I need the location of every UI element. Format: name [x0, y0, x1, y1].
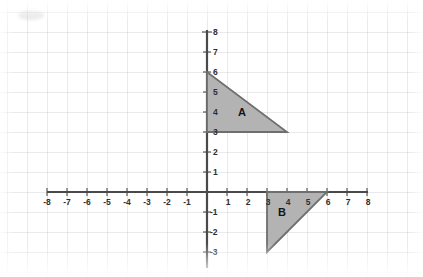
x-tick-label: 4: [286, 197, 291, 207]
x-tick-label: 5: [306, 197, 311, 207]
x-tick-label: 6: [326, 197, 331, 207]
x-negative-tick-labels: -8 -7 -6 -5 -4 -3 -2 -1: [43, 197, 191, 207]
triangle-b-label: B: [278, 206, 286, 218]
triangle-a-shape: [207, 72, 287, 132]
y-tick-label: -1: [210, 207, 218, 217]
x-tick-label: 7: [346, 197, 351, 207]
coordinate-plane-figure: -8 -7 -6 -5 -4 -3 -2 -1 1 2 3 4 5 6 7 8 …: [0, 0, 423, 277]
x-tick-label: 3: [266, 197, 271, 207]
y-tick-label: 3: [213, 127, 218, 137]
y-tick-label: 7: [213, 47, 218, 57]
x-tick-label: 1: [226, 197, 231, 207]
x-tick-label: -2: [163, 197, 171, 207]
y-tick-label: 2: [213, 147, 218, 157]
y-tick-label: 5: [213, 87, 218, 97]
x-tick-label: -5: [103, 197, 111, 207]
x-tick-label: -1: [183, 197, 191, 207]
y-tick-label: 6: [213, 67, 218, 77]
triangle-a-label: A: [238, 106, 246, 118]
y-tick-label: -2: [210, 227, 218, 237]
x-tick-label: -6: [83, 197, 91, 207]
x-tick-label: -3: [143, 197, 151, 207]
y-negative-tick-labels: -1 -2 -3: [210, 207, 218, 257]
y-tick-label: 8: [213, 27, 218, 37]
triangle-b-shape: [267, 192, 327, 252]
x-tick-label: 2: [246, 197, 251, 207]
x-tick-label: 8: [366, 197, 371, 207]
coordinate-plot-svg: -8 -7 -6 -5 -4 -3 -2 -1 1 2 3 4 5 6 7 8 …: [0, 0, 423, 277]
y-tick-label: 1: [213, 167, 218, 177]
x-tick-label: -7: [63, 197, 71, 207]
x-tick-label: -4: [123, 197, 131, 207]
y-tick-label: 4: [213, 107, 218, 117]
x-tick-label: -8: [43, 197, 51, 207]
y-tick-label: -3: [210, 247, 218, 257]
